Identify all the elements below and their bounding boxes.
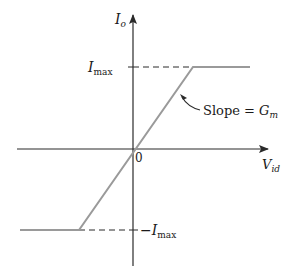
x-axis-label: Vid [262, 157, 280, 174]
origin-label: 0 [135, 151, 143, 165]
slope-arrow-head [180, 94, 187, 100]
neg-imax-label: −Imax [140, 222, 176, 240]
slope-label: Slope = Gm [203, 103, 278, 120]
imax-label: Imax [87, 59, 113, 77]
transfer-characteristic-diagram: Io Vid 0 Imax −Imax Slope = Gm [0, 0, 290, 276]
y-axis-label: Io [114, 11, 127, 29]
